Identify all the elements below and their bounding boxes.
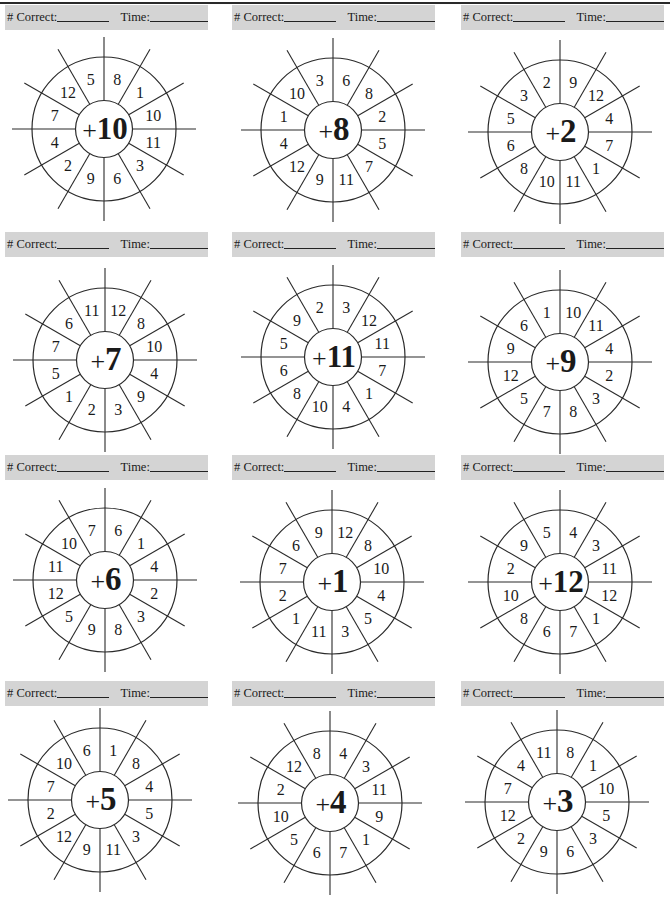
time-blank-field[interactable]	[377, 681, 435, 698]
wheel-number: 12	[588, 87, 604, 104]
wheel-addend: +11	[312, 339, 356, 374]
score-header-bar: # Correct: Time:	[232, 232, 435, 257]
time-blank-field[interactable]	[150, 232, 208, 249]
correct-blank-field[interactable]	[57, 5, 109, 22]
addition-wheel: +5184531191227106	[0, 700, 200, 899]
wheel-spoke	[118, 49, 150, 104]
correct-blank-field[interactable]	[513, 232, 565, 249]
wheel-number: 10	[373, 560, 389, 577]
wheel-number: 4	[605, 110, 613, 127]
correct-blank-field[interactable]	[513, 5, 565, 22]
correct-blank-field[interactable]	[284, 681, 336, 698]
wheel-number: 5	[520, 390, 528, 407]
wheel-addend: +3	[542, 783, 573, 819]
wheel-spoke	[347, 382, 379, 437]
wheel-number: 12	[60, 84, 76, 101]
wheel-number: 9	[520, 537, 528, 554]
correct-blank-field[interactable]	[284, 5, 336, 22]
correct-blank-field[interactable]	[57, 455, 109, 472]
time-blank-field[interactable]	[150, 681, 208, 698]
correct-label: # Correct:	[463, 5, 513, 30]
time-blank-field[interactable]	[606, 681, 664, 698]
wheel-number: 10	[61, 535, 77, 552]
wheel-number: 4	[150, 365, 158, 382]
wheel-number: 7	[569, 623, 577, 640]
wheel-number: 11	[338, 171, 353, 188]
wheel-number: 1	[592, 160, 600, 177]
wheel-spoke	[344, 723, 376, 778]
wheel-spoke	[119, 500, 151, 555]
wheel-number: 5	[290, 831, 298, 848]
addition-wheel: +4431191765102128	[230, 703, 430, 899]
time-blank-field[interactable]	[377, 5, 435, 22]
score-header-bar: # Correct: Time:	[5, 5, 208, 30]
wheel-number: 3	[316, 72, 324, 89]
correct-blank-field[interactable]	[513, 455, 565, 472]
wheel-number: 4	[145, 778, 153, 795]
score-header-bar: # Correct: Time:	[461, 232, 664, 257]
wheel-number: 7	[88, 522, 96, 539]
time-blank-field[interactable]	[377, 232, 435, 249]
correct-label: # Correct:	[7, 232, 57, 257]
correct-blank-field[interactable]	[57, 681, 109, 698]
wheel-number: 11	[375, 335, 390, 352]
wheel-number: 7	[51, 107, 59, 124]
wheel-number: 6	[342, 72, 350, 89]
wheel-number: 10	[289, 85, 305, 102]
wheel-number: 2	[605, 367, 613, 384]
wheel-number: 2	[88, 401, 96, 418]
wheel-number: 6	[313, 844, 321, 861]
wheel-number: 6	[507, 137, 515, 154]
correct-blank-field[interactable]	[284, 232, 336, 249]
wheel-number: 11	[84, 302, 99, 319]
wheel-number: 2	[64, 157, 72, 174]
wheel-number: 4	[605, 340, 613, 357]
wheel-spoke	[514, 387, 546, 442]
time-blank-field[interactable]	[150, 5, 208, 22]
wheel-addend: +6	[90, 561, 121, 597]
wheel-number: 7	[378, 362, 386, 379]
wheel-number: 10	[598, 780, 614, 797]
correct-blank-field[interactable]	[284, 455, 336, 472]
wheel-number: 2	[517, 830, 525, 847]
addition-wheel: +10811011369247125	[4, 29, 204, 229]
wheel-number: 9	[375, 808, 383, 825]
wheel-spoke	[571, 827, 603, 882]
time-blank-field[interactable]	[377, 455, 435, 472]
wheel-number: 2	[277, 781, 285, 798]
wheel-number: 6	[113, 170, 121, 187]
wheel-spoke	[511, 827, 543, 882]
addition-wheel: +1128104531112769	[232, 482, 432, 682]
wheel-number: 6	[543, 623, 551, 640]
wheel-number: 8	[566, 744, 574, 761]
time-blank-field[interactable]	[606, 455, 664, 472]
wheel-number: 4	[150, 558, 158, 575]
addition-wheel: +9101142387512961	[460, 262, 660, 462]
wheel-number: 1	[592, 610, 600, 627]
time-blank-field[interactable]	[606, 232, 664, 249]
wheel-number: 3	[592, 390, 600, 407]
wheel-spoke	[284, 828, 316, 883]
wheel-number: 1	[365, 385, 373, 402]
correct-blank-field[interactable]	[513, 681, 565, 698]
wheel-number: 4	[569, 524, 577, 541]
wheel-number: 5	[378, 135, 386, 152]
wheel-number: 4	[280, 135, 288, 152]
wheel-number: 7	[279, 560, 287, 577]
wheel-spoke	[119, 605, 151, 660]
correct-blank-field[interactable]	[57, 232, 109, 249]
wheel-number: 12	[601, 587, 617, 604]
wheel-number: 3	[592, 537, 600, 554]
wheel-number: 10	[273, 808, 289, 825]
wheel-number: 12	[500, 807, 516, 824]
wheel-spoke	[347, 50, 379, 105]
wheel-spoke	[514, 52, 546, 107]
time-blank-field[interactable]	[150, 455, 208, 472]
wheel-spoke	[287, 277, 319, 332]
wheel-number: 10	[146, 338, 162, 355]
wheel-number: 5	[145, 805, 153, 822]
wheel-number: 8	[137, 315, 145, 332]
wheel-number: 1	[543, 304, 551, 321]
time-label: Time:	[120, 232, 149, 257]
time-blank-field[interactable]	[606, 5, 664, 22]
